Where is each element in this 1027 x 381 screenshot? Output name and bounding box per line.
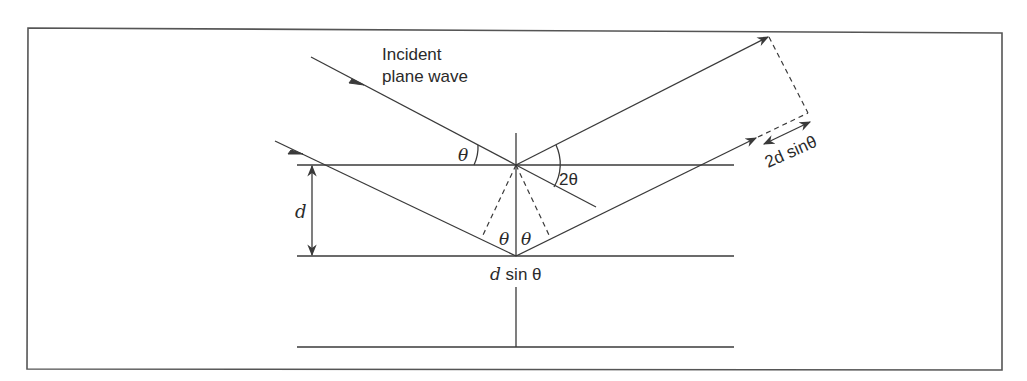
wavefront-dashed [769,37,808,113]
incident-extension-line [516,165,596,207]
reflected-ray-lower [516,138,756,256]
d-spacing-label: d [295,201,307,222]
perpendicular-dashed-left [483,165,516,235]
reflected-ray-lower-dashed [758,113,808,137]
theta-incident-label: θ [458,145,468,165]
diagram-canvas: Incident plane wave θ 2θ d θ θ d sin θ 2… [0,0,1027,381]
incident-label-line1: Incident [382,45,442,64]
perpendicular-dashed-right [516,165,549,235]
two-theta-label: 2θ [559,170,578,189]
reflected-ray-upper [516,37,768,165]
figure-frame [27,28,1002,370]
incident-ray-upper-arrow-icon [349,79,364,85]
d-sin-theta-label: d sin θ [490,264,542,284]
theta-right-label: θ [521,229,531,249]
bragg-diffraction-figure: Incident plane wave θ 2θ d θ θ d sin θ 2… [0,0,1027,381]
incident-label-line2: plane wave [382,67,468,86]
theta-left-label: θ [499,229,509,249]
theta-incident-arc [474,145,478,165]
incident-ray-lower [275,141,516,256]
path-difference-label: 2d sinθ [762,132,820,172]
